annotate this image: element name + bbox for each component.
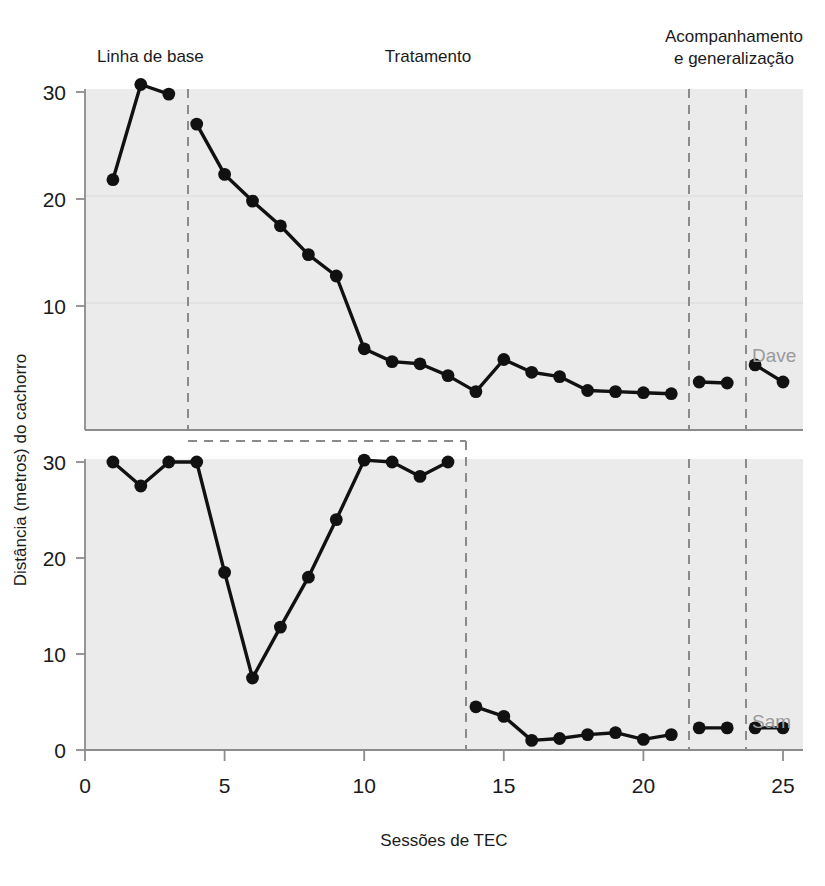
- data-point: [553, 732, 566, 745]
- data-point: [525, 366, 538, 379]
- data-point: [302, 571, 315, 584]
- data-point: [693, 722, 706, 735]
- x-tick-label-25: 25: [771, 774, 794, 797]
- data-point: [442, 369, 455, 382]
- phase-header-followup-line2: e generalização: [674, 49, 794, 68]
- data-point: [358, 454, 371, 467]
- data-point: [190, 456, 203, 469]
- data-point: [246, 672, 259, 685]
- data-point: [330, 513, 343, 526]
- data-point: [665, 728, 678, 741]
- panel-sam-ylabel-0: 0: [54, 739, 66, 762]
- data-point: [721, 377, 734, 390]
- data-point: [581, 728, 594, 741]
- panel-dave-band-10: [85, 302, 803, 304]
- phase-header-treatment: Tratamento: [385, 47, 471, 66]
- panel-sam-ylabel-30: 30: [43, 451, 66, 474]
- x-tick-label-0: 0: [79, 774, 91, 797]
- data-point: [107, 173, 120, 186]
- data-point: [162, 88, 175, 101]
- data-point: [777, 376, 790, 389]
- data-point: [665, 387, 678, 400]
- x-tick-label-5: 5: [219, 774, 231, 797]
- data-point: [609, 385, 622, 398]
- data-point: [637, 733, 650, 746]
- panel-sam-ylabel-10: 10: [43, 643, 66, 666]
- data-point: [358, 342, 371, 355]
- x-tick-label-15: 15: [492, 774, 515, 797]
- panel-sam-background: [85, 459, 803, 750]
- data-point: [386, 456, 399, 469]
- data-point: [274, 219, 287, 232]
- data-point: [218, 566, 231, 579]
- panel-dave: 30 20 10 Dave: [43, 78, 803, 430]
- data-point: [246, 195, 259, 208]
- data-point: [330, 270, 343, 283]
- data-point: [581, 384, 594, 397]
- panel-dave-ylabel-10: 10: [43, 295, 66, 318]
- data-point: [442, 456, 455, 469]
- data-point: [721, 722, 734, 735]
- panel-dave-ylabel-20: 20: [43, 188, 66, 211]
- y-axis-title: Distância (metros) do cachorro: [11, 354, 30, 586]
- x-axis-title: Sessões de TEC: [380, 831, 507, 850]
- phase-header-followup-line1: Acompanhamento: [665, 27, 803, 46]
- x-tick-label-10: 10: [353, 774, 376, 797]
- data-point: [553, 370, 566, 383]
- figure-container: Linha de base Tratamento Acompanhamento …: [0, 0, 825, 886]
- series-label-sam: Sam: [752, 711, 791, 732]
- phase-header-baseline: Linha de base: [97, 47, 204, 66]
- data-point: [637, 386, 650, 399]
- single-case-design-chart: Linha de base Tratamento Acompanhamento …: [0, 0, 825, 886]
- data-point: [470, 385, 483, 398]
- data-point: [190, 118, 203, 131]
- data-point: [414, 357, 427, 370]
- data-point: [218, 168, 231, 181]
- data-point: [274, 621, 287, 634]
- panel-dave-ylabel-30: 30: [43, 81, 66, 104]
- series-label-dave: Dave: [752, 345, 796, 366]
- data-point: [162, 456, 175, 469]
- data-point: [302, 248, 315, 261]
- data-point: [414, 470, 427, 483]
- data-point: [470, 700, 483, 713]
- panel-dave-band-20: [85, 195, 803, 197]
- x-tick-label-20: 20: [632, 774, 655, 797]
- data-point: [497, 710, 510, 723]
- data-point: [693, 376, 706, 389]
- data-point: [134, 78, 147, 91]
- data-point: [525, 734, 538, 747]
- panel-sam: 30 20 10 0 Sam: [43, 441, 803, 762]
- data-point: [609, 726, 622, 739]
- data-point: [497, 353, 510, 366]
- data-point: [134, 480, 147, 493]
- data-point: [107, 456, 120, 469]
- panel-sam-ylabel-20: 20: [43, 547, 66, 570]
- data-point: [386, 355, 399, 368]
